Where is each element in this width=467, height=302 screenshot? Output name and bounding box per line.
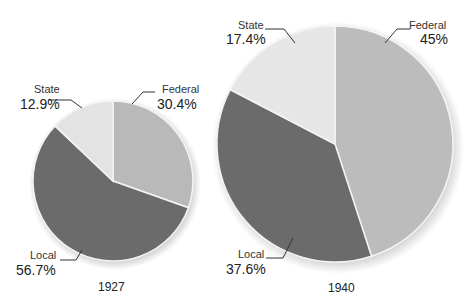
label-state-1940-pct: 17.4% xyxy=(226,32,266,46)
pie-1927 xyxy=(29,92,201,270)
label-state-1927-pct: 12.9% xyxy=(20,97,60,111)
label-federal-1940-pct: 45% xyxy=(420,32,448,46)
label-federal-1940-name: Federal xyxy=(409,20,446,31)
label-local-1927-name: Local xyxy=(30,250,56,261)
label-federal-1927-pct: 30.4% xyxy=(157,97,197,111)
chart-container: State 12.9% Federal 30.4% Local 56.7% 19… xyxy=(0,0,467,302)
label-local-1940-pct: 37.6% xyxy=(226,262,266,276)
label-federal-1927-name: Federal xyxy=(162,84,199,95)
year-label-1927: 1927 xyxy=(98,281,125,293)
label-state-1940-name: State xyxy=(238,20,264,31)
year-label-1940: 1940 xyxy=(328,282,355,294)
label-local-1940-name: Local xyxy=(238,249,264,260)
label-local-1927-pct: 56.7% xyxy=(16,263,56,277)
label-state-1927-name: State xyxy=(34,84,60,95)
pie-1940 xyxy=(212,22,464,274)
